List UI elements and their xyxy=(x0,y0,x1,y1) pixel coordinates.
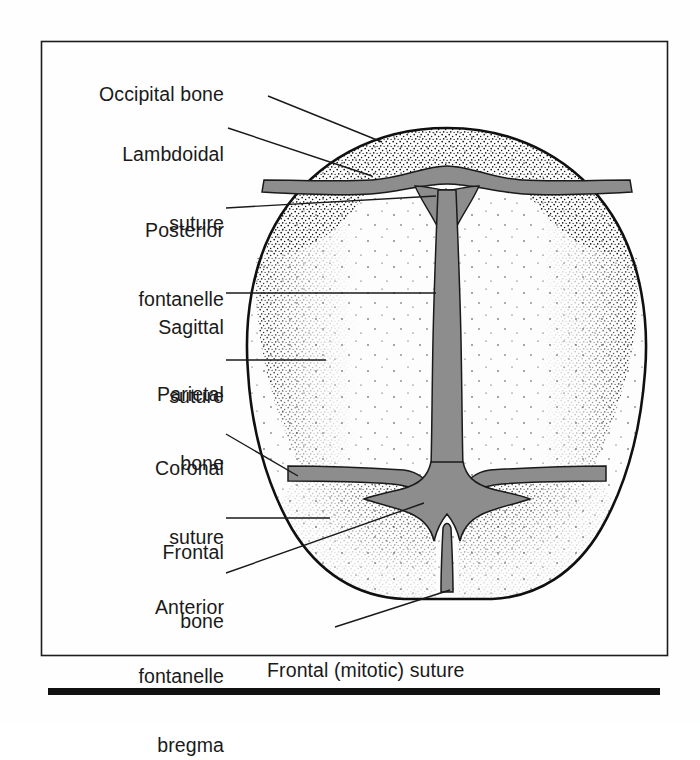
label-coronal-suture-line1: Coronal xyxy=(40,457,224,480)
label-frontal-mitotic-suture-text: Frontal (mitotic) suture xyxy=(267,659,464,681)
label-anterior-fontanelle-line2: fontanelle xyxy=(40,665,224,688)
sagittal-suture xyxy=(431,190,463,468)
label-posterior-fontanelle-line1: Posterior xyxy=(40,219,224,242)
label-anterior-fontanelle-line3: bregma xyxy=(40,734,224,757)
label-lambdoidal-suture-line1: Lambdoidal xyxy=(40,143,224,166)
label-frontal-mitotic-suture: Frontal (mitotic) suture xyxy=(245,636,545,705)
frontal-mitotic-suture xyxy=(441,524,453,593)
label-parietal-bone-line1: Parietal xyxy=(40,383,224,406)
label-anterior-fontanelle-bregma: Anterior fontanelle bregma xyxy=(40,550,224,760)
label-anterior-fontanelle-line1: Anterior xyxy=(40,596,224,619)
label-sagittal-suture-line1: Sagittal xyxy=(40,316,224,339)
